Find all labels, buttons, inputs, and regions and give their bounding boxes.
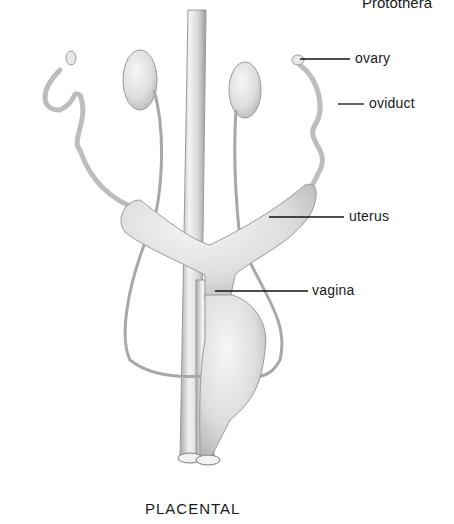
placental-reproductive-diagram: [0, 0, 454, 524]
label-ovary: ovary: [355, 50, 390, 66]
left-ovary-icon: [66, 51, 76, 65]
label-uterus: uterus: [349, 208, 389, 224]
diagram-caption: PLACENTAL: [145, 500, 240, 517]
uterus-shape: [121, 184, 316, 300]
label-oviduct: oviduct: [369, 95, 415, 111]
oviducts: [45, 65, 322, 210]
label-vagina: vagina: [312, 282, 354, 298]
vagina-shape: [200, 295, 266, 455]
right-ovary-icon: [292, 55, 304, 65]
